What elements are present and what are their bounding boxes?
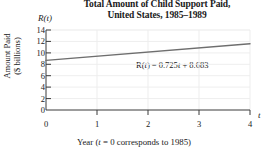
chart-plot-svg [0,0,268,154]
gridlines-group [46,30,250,110]
x-axis-caption: Year (t = 0 corresponds to 1985) [20,137,248,147]
chart-figure: Total Amount of Child Support Paid, Unit… [0,0,268,154]
